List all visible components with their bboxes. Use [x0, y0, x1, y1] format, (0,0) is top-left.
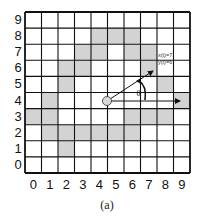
pose-x-label: x(t)=7 — [158, 52, 172, 59]
y-tick-label: 8 — [12, 29, 24, 42]
x-tick-label: 3 — [76, 178, 90, 191]
x-tick-label: 5 — [109, 178, 123, 191]
theta-symbol: θ — [137, 89, 141, 98]
occupied-cell — [108, 125, 125, 141]
y-tick-label: 1 — [12, 142, 24, 155]
occupied-cell — [91, 125, 108, 141]
occupied-cell — [157, 76, 174, 92]
x-tick-label: 0 — [26, 178, 40, 191]
x-tick-label: 9 — [175, 178, 189, 191]
y-tick-label: 5 — [12, 77, 24, 90]
occupied-cell — [42, 93, 59, 109]
robot-icon — [103, 97, 112, 106]
occupancy-grid-figure: θ 9876543210 0123456789 x(t)=7 y(t)=6 (a… — [0, 0, 214, 217]
x-tick-label: 2 — [59, 178, 73, 191]
occupied-cell — [42, 109, 59, 125]
y-tick-label: 0 — [12, 158, 24, 171]
y-tick-label: 9 — [12, 13, 24, 26]
figure-caption: (a) — [0, 198, 214, 213]
occupied-cell — [42, 125, 59, 141]
y-tick-label: 7 — [12, 45, 24, 58]
y-tick-label: 2 — [12, 126, 24, 139]
occupied-cell — [75, 125, 92, 141]
x-tick-label: 7 — [142, 178, 156, 191]
occupied-cell — [75, 44, 92, 60]
occupied-cell — [124, 125, 141, 141]
y-tick-label: 3 — [12, 110, 24, 123]
occupied-cell — [58, 76, 75, 92]
x-tick-label: 1 — [43, 178, 57, 191]
x-tick-label: 8 — [158, 178, 172, 191]
occupied-cell — [124, 44, 141, 60]
y-tick-label: 4 — [12, 94, 24, 107]
occupied-cell — [91, 44, 108, 60]
occupied-cell — [157, 109, 174, 125]
pose-annotation: x(t)=7 y(t)=6 — [158, 52, 172, 65]
occupied-cell — [141, 44, 158, 60]
occupied-cell — [91, 28, 108, 44]
occupied-cell — [58, 141, 75, 157]
occupied-cell — [58, 125, 75, 141]
occupied-cell — [124, 28, 141, 44]
occupied-cell — [124, 109, 141, 125]
x-tick-label: 6 — [125, 178, 139, 191]
y-tick-label: 6 — [12, 61, 24, 74]
x-tick-label: 4 — [92, 178, 106, 191]
occupied-cell — [58, 60, 75, 76]
occupied-cell — [108, 28, 125, 44]
occupied-cell — [141, 109, 158, 125]
pose-y-label: y(t)=6 — [158, 59, 172, 66]
occupied-cell — [25, 109, 42, 125]
occupied-cell — [75, 60, 92, 76]
